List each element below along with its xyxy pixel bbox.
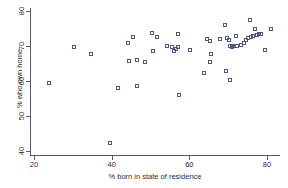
scatter-point [127, 59, 131, 63]
scatter-point [177, 93, 181, 97]
scatter-point [47, 81, 51, 85]
scatter-point [209, 52, 213, 56]
y-tick [26, 151, 30, 152]
scatter-point [263, 48, 267, 52]
y-tick-label: 40 [4, 147, 26, 155]
scatter-point [224, 69, 228, 73]
x-tick-label: 40 [100, 160, 124, 169]
scatter-point [165, 44, 169, 48]
scatter-point [202, 71, 206, 75]
scatter-point [135, 84, 139, 88]
scatter-point [131, 35, 135, 39]
y-axis-title: % who own home [15, 19, 24, 139]
scatter-point [116, 86, 120, 90]
scatter-point [155, 35, 159, 39]
scatter-point [126, 41, 130, 45]
scatter-plot-figure: 4050607080 20406080 % born in state of r… [0, 0, 288, 188]
scatter-point [135, 58, 139, 62]
scatter-point [227, 38, 231, 42]
scatter-point [176, 45, 180, 49]
scatter-point [108, 141, 112, 145]
y-tick [26, 11, 30, 12]
scatter-point [218, 37, 222, 41]
x-tick-label: 20 [22, 160, 46, 169]
scatter-point [259, 32, 263, 36]
y-tick [26, 81, 30, 82]
y-tick [26, 46, 30, 47]
scatter-point [143, 60, 147, 64]
scatter-point [176, 32, 180, 36]
scatter-point [248, 18, 252, 22]
plot-area [30, 8, 280, 155]
scatter-point [253, 27, 257, 31]
y-tick [26, 116, 30, 117]
scatter-point [208, 39, 212, 43]
scatter-point [208, 60, 212, 64]
y-axis-line [30, 8, 31, 155]
x-axis-line [30, 155, 280, 156]
x-tick-label: 80 [255, 160, 279, 169]
x-axis-title: % born in state of residence [30, 172, 280, 181]
x-tick-label: 60 [177, 160, 201, 169]
scatter-point [234, 34, 238, 38]
scatter-point [72, 45, 76, 49]
scatter-point [188, 48, 192, 52]
y-tick-label: 80 [4, 7, 26, 15]
scatter-point [228, 78, 232, 82]
scatter-point [223, 23, 227, 27]
scatter-point [89, 52, 93, 56]
scatter-point [151, 49, 155, 53]
scatter-point [269, 27, 273, 31]
scatter-point [150, 31, 154, 35]
